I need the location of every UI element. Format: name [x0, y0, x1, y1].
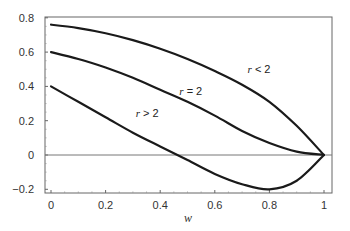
label-r-less-than-2: r < 2: [248, 63, 271, 75]
curves: [51, 25, 324, 190]
x-tick-label: 0.2: [98, 199, 113, 211]
x-tick-label: 0.4: [153, 199, 168, 211]
x-tick-label: 0.8: [262, 199, 277, 211]
y-tick-label: 0.8: [19, 12, 34, 24]
y-tick-label: −0.2: [12, 183, 34, 195]
label-r-equals-2: r = 2: [179, 85, 202, 97]
label-r-greater-than-2: r > 2: [136, 107, 159, 119]
curve-labels: r < 2r = 2r > 2: [136, 63, 271, 120]
x-axis-label: w: [184, 211, 192, 225]
y-tick-label: 0: [28, 149, 34, 161]
x-tick-label: 0: [48, 199, 54, 211]
plot-frame: [45, 17, 332, 193]
curve-r-equals-2: [51, 52, 324, 155]
x-tick-label: 0.6: [207, 199, 222, 211]
line-chart: 00.20.40.60.81−0.200.20.40.60.8 r < 2r =…: [0, 0, 350, 231]
plot-border: [45, 17, 332, 193]
x-tick-label: 1: [321, 199, 327, 211]
y-tick-label: 0.4: [19, 80, 34, 92]
y-tick-label: 0.2: [19, 115, 34, 127]
y-tick-label: 0.6: [19, 46, 34, 58]
